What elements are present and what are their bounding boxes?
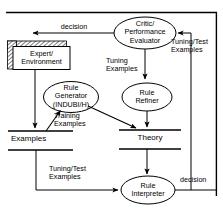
edge-examples-to-rule-interpreter	[36, 150, 118, 190]
diagram-vector-layer	[0, 0, 223, 208]
edge-rule-generator-to-theory	[88, 106, 136, 128]
node-rule-refiner-shape	[122, 83, 172, 111]
outer-frame	[6, 13, 217, 197]
node-rule-interpreter-shape	[121, 176, 175, 204]
diagram-canvas: Critic/ Performance Evaluator Expert/ En…	[0, 0, 223, 208]
store-examples-shape	[8, 131, 73, 150]
edge-examples-to-rule-generator	[46, 111, 61, 132]
node-critic-shape	[114, 17, 176, 49]
node-expert-shape	[8, 41, 71, 70]
edge-tuning-test-examples-to-critic	[178, 33, 191, 178]
store-theory-shape	[119, 130, 181, 149]
node-rule-generator-shape	[44, 82, 99, 113]
